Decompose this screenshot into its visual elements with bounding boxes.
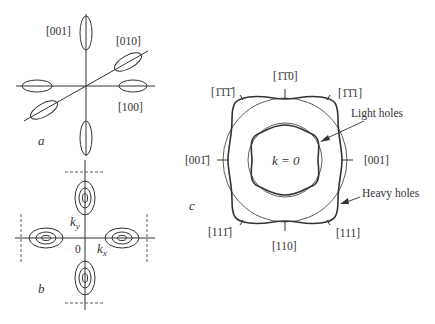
direction-top-left-label: [1̄1̄1̄] (211, 86, 235, 98)
kx-axis-label: kx (97, 241, 107, 258)
panel-c: [1̄1̄0] [1̄1̄1̄] [1̄1̄1] [001̄] [001] [1… (185, 70, 420, 252)
direction-001-label: [001] (46, 25, 71, 37)
direction-top-right-label: [1̄1̄1] (338, 87, 362, 99)
band-structure-figure: [001] [010] [100] a (0, 0, 435, 324)
direction-010-label: [010] (116, 35, 141, 47)
heavy-holes-label: Heavy holes (362, 187, 420, 200)
direction-bottom-left-label: [111̄] (208, 226, 232, 238)
origin-label: 0 (75, 243, 81, 255)
panel-b: ky kx 0 b (15, 160, 155, 310)
direction-top-label: [1̄1̄0] (273, 70, 297, 82)
direction-right-label: [001] (364, 154, 389, 166)
light-holes-label: Light holes (351, 107, 404, 120)
direction-bottom-right-label: [111] (336, 227, 360, 239)
panel-b-label: b (38, 281, 45, 296)
panel-a: [001] [010] [100] a (16, 14, 155, 156)
direction-100-label: [100] (118, 101, 143, 113)
direction-left-label: [001̄] (185, 154, 210, 166)
panel-a-label: a (38, 133, 45, 148)
direction-bottom-label: [110] (272, 240, 296, 252)
panel-c-label: c (189, 198, 195, 213)
ky-axis-label: ky (70, 214, 80, 231)
center-label: k = 0 (272, 153, 300, 168)
